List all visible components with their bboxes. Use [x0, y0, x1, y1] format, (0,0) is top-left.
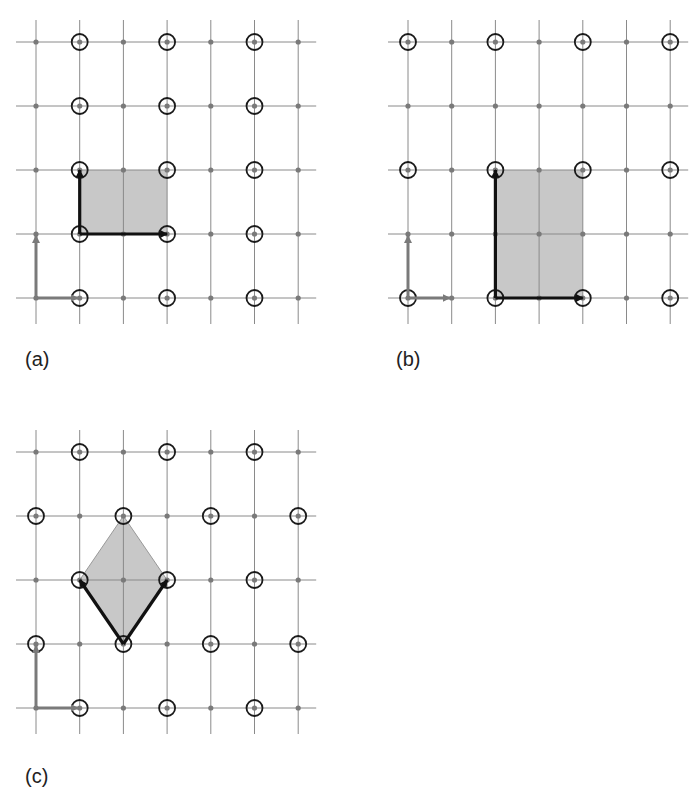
grid-dot: [449, 103, 454, 108]
grid-dot: [33, 167, 38, 172]
panel-a: [16, 20, 316, 324]
grid-dot: [33, 39, 38, 44]
grid-dot: [296, 513, 301, 518]
grid-dot: [405, 39, 410, 44]
grid-dot: [405, 103, 410, 108]
grid-dot: [296, 449, 301, 454]
grid-dot: [624, 295, 629, 300]
grid-dot: [449, 39, 454, 44]
grid-dot: [252, 577, 257, 582]
grid-dot: [296, 167, 301, 172]
grid-dot: [624, 39, 629, 44]
grid-dot: [208, 577, 213, 582]
grid-dot: [208, 641, 213, 646]
grid-dot: [121, 449, 126, 454]
grid-dot: [580, 103, 585, 108]
grid-dot: [252, 167, 257, 172]
grid-dot: [208, 231, 213, 236]
grid-dot: [252, 39, 257, 44]
grid-dot: [121, 39, 126, 44]
grid-dot: [121, 705, 126, 710]
grid-dot: [296, 641, 301, 646]
grid-dot: [296, 103, 301, 108]
grid-dot: [165, 167, 170, 172]
panel-b: [388, 20, 688, 324]
grid-dot: [580, 167, 585, 172]
panel-label-c: (c): [25, 765, 48, 788]
grid-dot: [449, 167, 454, 172]
panel-label-a: (a): [25, 348, 49, 371]
grid-dot: [296, 231, 301, 236]
grid-dot: [77, 103, 82, 108]
grid-dot: [668, 39, 673, 44]
panel-label-b: (b): [396, 348, 420, 371]
grid-dot: [624, 103, 629, 108]
grid-dot: [296, 577, 301, 582]
grid-dot: [668, 295, 673, 300]
grid-dot: [165, 641, 170, 646]
grid-dot: [121, 295, 126, 300]
grid-dot: [252, 705, 257, 710]
grid-dot: [121, 577, 126, 582]
panel-c: [16, 430, 316, 734]
grid-dot: [580, 231, 585, 236]
grid-dot: [121, 167, 126, 172]
grid-dot: [252, 449, 257, 454]
grid-dot: [208, 295, 213, 300]
grid-dot: [493, 103, 498, 108]
grid-dot: [33, 103, 38, 108]
grid-dot: [208, 103, 213, 108]
grid-dot: [208, 513, 213, 518]
grid-dot: [493, 39, 498, 44]
grid-dot: [668, 231, 673, 236]
grid-dot: [252, 295, 257, 300]
grid-dot: [252, 513, 257, 518]
grid-dot: [33, 231, 38, 236]
grid-dot: [165, 513, 170, 518]
grid-dot: [121, 103, 126, 108]
grid-dot: [252, 231, 257, 236]
grid-dot: [77, 513, 82, 518]
grid-dot: [668, 167, 673, 172]
grid-dot: [537, 39, 542, 44]
grid-dot: [33, 513, 38, 518]
grid-dot: [208, 449, 213, 454]
grid-dot: [77, 705, 82, 710]
grid-dot: [165, 449, 170, 454]
grid-dot: [296, 705, 301, 710]
grid-dot: [405, 231, 410, 236]
grid-dot: [33, 577, 38, 582]
grid-dot: [252, 103, 257, 108]
grid-dot: [77, 39, 82, 44]
grid-dot: [208, 39, 213, 44]
grid-dot: [33, 449, 38, 454]
grid-dot: [77, 449, 82, 454]
grid-dot: [537, 231, 542, 236]
lattice-figure: [0, 0, 699, 809]
grid-dot: [296, 39, 301, 44]
grid-dot: [624, 167, 629, 172]
grid-dot: [208, 167, 213, 172]
grid-dot: [624, 231, 629, 236]
grid-dot: [77, 641, 82, 646]
grid-dot: [33, 641, 38, 646]
grid-dot: [165, 103, 170, 108]
grid-dot: [449, 295, 454, 300]
grid-dot: [165, 39, 170, 44]
grid-dot: [165, 295, 170, 300]
grid-dot: [537, 167, 542, 172]
grid-dot: [580, 39, 585, 44]
grid-dot: [252, 641, 257, 646]
grid-dot: [296, 295, 301, 300]
grid-dot: [449, 231, 454, 236]
grid-dot: [537, 103, 542, 108]
grid-dot: [121, 513, 126, 518]
grid-dot: [77, 295, 82, 300]
grid-dot: [668, 103, 673, 108]
grid-dot: [405, 167, 410, 172]
grid-dot: [165, 705, 170, 710]
grid-dot: [208, 705, 213, 710]
